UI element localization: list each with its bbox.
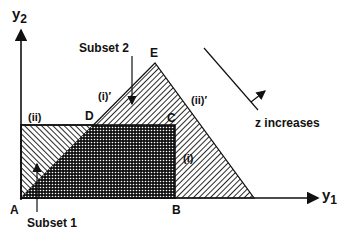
point-c-label: C [167, 111, 176, 125]
constraint-i-label: (i) [183, 152, 194, 164]
y1-axis-label: y1 [322, 186, 337, 207]
objective-label: z increases [255, 116, 320, 130]
constraint-ii-label: (ii) [28, 111, 42, 123]
point-d-label: D [85, 109, 94, 123]
subset2-label: Subset 2 [79, 41, 129, 55]
objective-direction-arrow [251, 91, 265, 102]
point-e-label: E [150, 46, 158, 60]
constraint-ii-prime-label: (ii)′ [191, 94, 207, 106]
y2-axis-label: y2 [12, 5, 27, 26]
constraint-i-prime-label: (i)′ [98, 90, 111, 102]
objective-isoline [204, 48, 258, 110]
point-b-label: B [172, 203, 181, 217]
point-a-label: A [10, 203, 19, 217]
feasible-region-diagram: y2 y1 A B C D E (ii) (i)′ (ii)′ (i) Subs… [0, 0, 348, 238]
subset1-label: Subset 1 [27, 216, 77, 230]
